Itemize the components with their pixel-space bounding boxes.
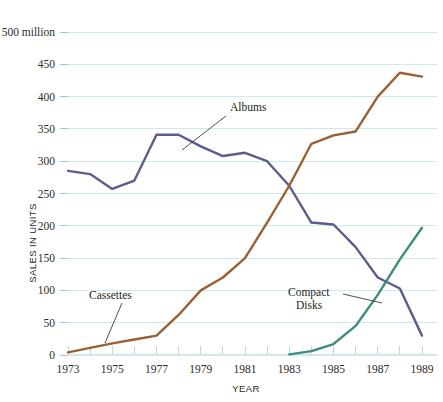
x-axis-title: YEAR <box>232 383 259 394</box>
chart-background <box>0 0 443 402</box>
annotation-label-compact-disks-line2: Disks <box>296 299 323 311</box>
x-tick-label-1979: 1979 <box>189 363 212 375</box>
sales-line-chart: 050100150200250300350400450500 million 1… <box>0 0 443 402</box>
y-tick-label-500: 500 million <box>2 26 56 38</box>
chart-canvas: 050100150200250300350400450500 million 1… <box>0 0 443 402</box>
y-tick-label-450: 450 <box>38 58 56 70</box>
x-tick-label-1987: 1987 <box>366 363 389 375</box>
y-axis-title: SALES IN UNITS <box>27 203 38 283</box>
y-tick-label-100: 100 <box>38 284 56 296</box>
x-tick-label-1977: 1977 <box>145 363 168 375</box>
y-tick-label-300: 300 <box>38 155 56 167</box>
x-tick-label-1989: 1989 <box>411 363 434 375</box>
y-tick-label-400: 400 <box>38 91 56 103</box>
y-tick-label-0: 0 <box>49 349 55 361</box>
annotation-label-compact-disks: Compact <box>288 286 330 299</box>
annotation-label-albums: Albums <box>230 101 267 113</box>
y-tick-label-50: 50 <box>44 317 56 329</box>
x-tick-label-1983: 1983 <box>278 363 301 375</box>
x-tick-label-1973: 1973 <box>57 363 80 375</box>
y-tick-label-350: 350 <box>38 123 56 135</box>
x-tick-label-1975: 1975 <box>101 363 124 375</box>
x-axis-tick-labels: 197319751977197919811983198519871989 <box>57 363 434 375</box>
x-tick-label-1985: 1985 <box>322 363 345 375</box>
y-tick-label-200: 200 <box>38 220 56 232</box>
annotation-label-cassettes: Cassettes <box>89 289 132 301</box>
x-tick-label-1981: 1981 <box>234 363 257 375</box>
y-tick-label-150: 150 <box>38 252 56 264</box>
y-tick-label-250: 250 <box>38 188 56 200</box>
